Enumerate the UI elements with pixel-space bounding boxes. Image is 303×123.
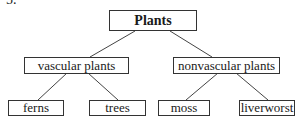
- node-ferns: ferns: [8, 100, 64, 116]
- node-liverworst: liverworst: [239, 100, 295, 116]
- node-vascular-plants: vascular plants: [24, 57, 129, 74]
- node-trees: trees: [89, 100, 146, 116]
- node-nonvascular-plants: nonvascular plants: [173, 57, 280, 74]
- node-moss: moss: [158, 100, 210, 116]
- node-plants: Plants: [109, 10, 197, 31]
